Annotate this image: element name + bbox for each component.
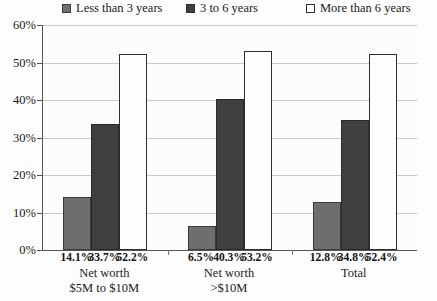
y-axis-tick xyxy=(37,100,43,101)
x-axis-category-label: Total xyxy=(291,266,416,281)
bar-value-label: 52.2% xyxy=(114,252,150,264)
y-axis-tick xyxy=(37,175,43,176)
bar xyxy=(313,202,341,250)
y-axis-tick-label: 20% xyxy=(2,169,36,182)
legend-swatch-icon xyxy=(186,4,195,13)
y-axis-tick-label: 50% xyxy=(2,57,36,70)
bar xyxy=(119,54,147,250)
y-axis-tick-label: 10% xyxy=(2,207,36,220)
legend-label: 3 to 6 years xyxy=(200,2,258,15)
x-axis-category-label: Net worth>$10M xyxy=(167,266,292,296)
y-axis-tick xyxy=(37,213,43,214)
legend-swatch-icon xyxy=(62,4,71,13)
bar xyxy=(244,51,272,251)
bar xyxy=(63,197,91,250)
bar xyxy=(216,99,244,250)
bar xyxy=(188,226,216,250)
legend-item-3-to-6-years: 3 to 6 years xyxy=(186,2,258,15)
category-label-line: Total xyxy=(291,266,416,281)
legend-item-more-than-6-years: More than 6 years xyxy=(306,2,411,15)
bar-value-labels: 14.1%33.7%52.2%6.5%40.3%53.2%12.8%34.8%5… xyxy=(42,252,416,266)
y-axis-tick xyxy=(37,25,43,26)
chart-legend: Less than 3 years 3 to 6 years More than… xyxy=(0,0,437,22)
y-axis-tick xyxy=(37,250,43,251)
y-axis-tick-label: 0% xyxy=(2,244,36,257)
y-axis-tick-label: 60% xyxy=(2,19,36,32)
bar xyxy=(91,124,119,250)
category-label-line: Net worth xyxy=(167,266,292,281)
bar xyxy=(369,54,397,251)
legend-label: Less than 3 years xyxy=(76,2,162,15)
legend-item-less-than-3-years: Less than 3 years xyxy=(62,2,162,15)
category-label-line: $5M to $10M xyxy=(42,281,167,296)
x-axis-category-label: Net worth$5M to $10M xyxy=(42,266,167,296)
y-axis-tick xyxy=(37,63,43,64)
bar-chart: Less than 3 years 3 to 6 years More than… xyxy=(0,0,437,301)
gridline xyxy=(43,63,417,64)
bar xyxy=(341,120,369,251)
legend-swatch-icon xyxy=(306,4,315,13)
plot-area xyxy=(42,25,417,251)
bar-value-label: 53.2% xyxy=(239,252,275,264)
y-axis-tick-label: 30% xyxy=(2,132,36,145)
y-axis-tick-label: 40% xyxy=(2,94,36,107)
y-axis-tick xyxy=(37,138,43,139)
category-label-line: Net worth xyxy=(42,266,167,281)
category-label-line: >$10M xyxy=(167,281,292,296)
legend-label: More than 6 years xyxy=(320,2,411,15)
bar-value-label: 52.4% xyxy=(364,252,400,264)
gridline xyxy=(43,25,417,26)
x-axis-category-labels: Net worth$5M to $10MNet worth>$10MTotal xyxy=(42,266,416,301)
